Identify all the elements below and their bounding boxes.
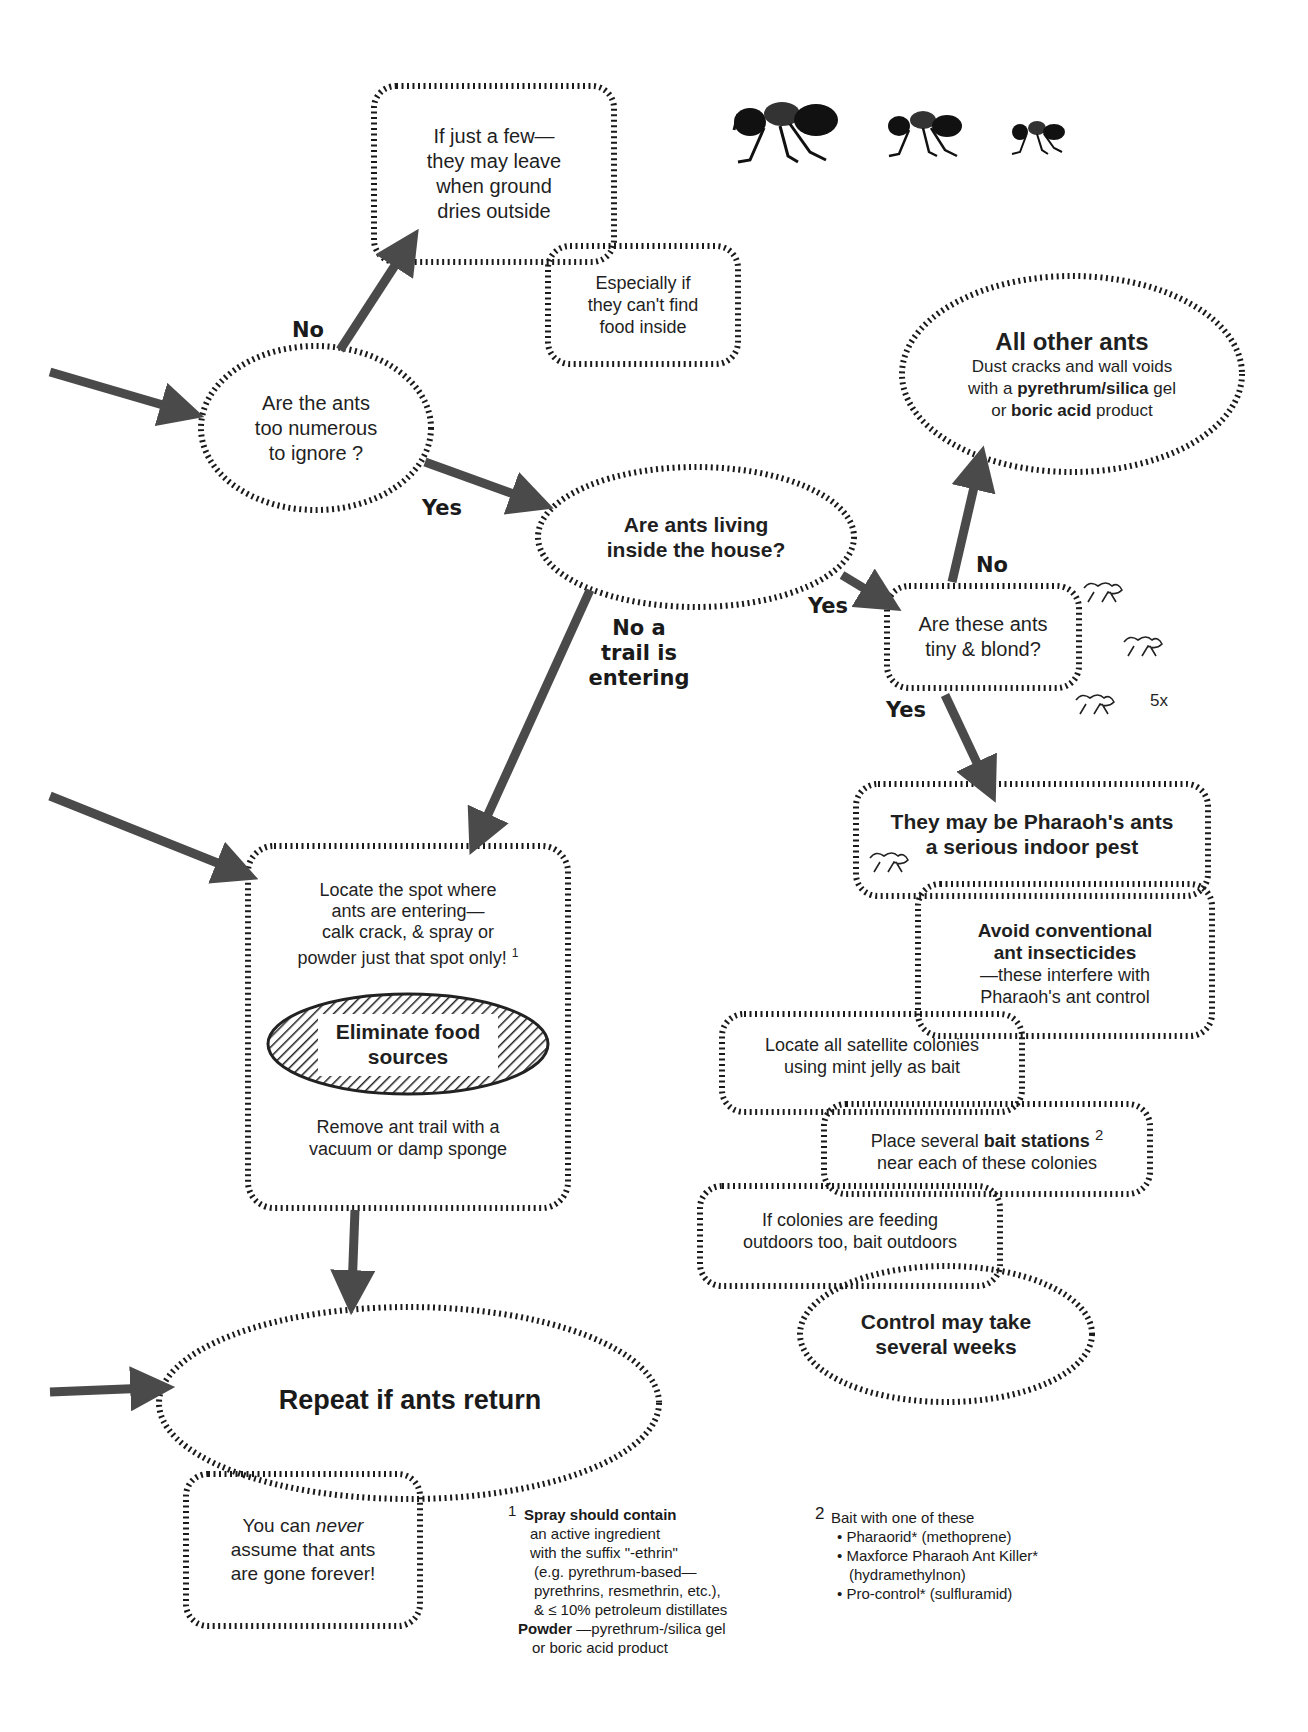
node-text: are gone forever! bbox=[231, 1562, 376, 1586]
ant-small-icon bbox=[1012, 121, 1065, 154]
node-text: dries outside bbox=[437, 199, 550, 224]
node-text: to ignore ? bbox=[269, 441, 364, 466]
few-ants-node: If just a few— they may leave when groun… bbox=[374, 86, 614, 262]
text-fragment: Place several bbox=[871, 1131, 984, 1151]
edge-label-no-numerous: No bbox=[292, 318, 324, 343]
edge-label-no-trail: No a trail is entering bbox=[584, 616, 694, 691]
node-text: food inside bbox=[599, 316, 686, 338]
footnote-marker: 1 bbox=[508, 1501, 516, 1520]
node-text: inside the house? bbox=[607, 537, 786, 562]
node-text: Eliminate food bbox=[336, 1019, 481, 1044]
node-text: or boric acid product bbox=[991, 400, 1153, 422]
node-text: when ground bbox=[436, 174, 552, 199]
node-text: Are these ants bbox=[919, 612, 1048, 637]
arrow-no-few bbox=[340, 250, 405, 350]
numerous-question-node: Are the ants too numerous to ignore ? bbox=[201, 346, 431, 510]
avoid-insecticides-node: Avoid conventional ant insecticides —the… bbox=[918, 904, 1212, 1024]
node-text: If colonies are feeding bbox=[762, 1209, 938, 1231]
living-inside-question-node: Are ants living inside the house? bbox=[538, 470, 854, 604]
footnote-list-item: • Pro-control* (sulfluramid) bbox=[815, 1584, 1105, 1603]
node-text: They may be Pharaoh's ants bbox=[891, 809, 1174, 834]
node-text: Locate the spot where bbox=[319, 880, 496, 901]
arrow-to-repeat bbox=[352, 1210, 355, 1290]
bait-outdoors-node: If colonies are feeding outdoors too, ba… bbox=[700, 1186, 1000, 1276]
node-text: Dust cracks and wall voids bbox=[972, 356, 1172, 378]
text-bold: pyrethrum/silica bbox=[1017, 379, 1148, 398]
label-line: No a bbox=[584, 616, 694, 641]
footnote-ref-2[interactable]: 2 bbox=[1095, 1126, 1103, 1143]
node-text: Are the ants bbox=[262, 391, 370, 416]
footnote-bold: Powder bbox=[518, 1620, 572, 1637]
repeat-node: Repeat if ants return bbox=[160, 1340, 660, 1460]
node-text: Are ants living bbox=[624, 512, 769, 537]
text-bold: bait stations bbox=[984, 1131, 1090, 1151]
text-fragment: powder just that spot only! bbox=[298, 948, 507, 968]
several-weeks-node: Control may take several weeks bbox=[800, 1276, 1092, 1392]
text-fragment: —pyrethrum-/silica gel bbox=[572, 1620, 725, 1637]
footnote-line: pyrethrins, resmethrin, etc.), bbox=[508, 1581, 808, 1600]
arrow-entry-1 bbox=[50, 372, 180, 410]
node-text: they may leave bbox=[427, 149, 562, 174]
text-fragment: product bbox=[1091, 401, 1152, 420]
footnote-line: or boric acid product bbox=[508, 1638, 808, 1657]
node-text: near each of these colonies bbox=[877, 1152, 1097, 1174]
footnote-2: 2 Bait with one of these • Pharaorid* (m… bbox=[815, 1508, 1105, 1603]
label-line: entering bbox=[584, 666, 694, 691]
tiny-blond-question-node: Are these ants tiny & blond? bbox=[887, 586, 1079, 688]
text-fragment: or bbox=[991, 401, 1011, 420]
magnification-label: 5x bbox=[1150, 688, 1168, 713]
flowchart-canvas: If just a few— they may leave when groun… bbox=[0, 0, 1308, 1732]
pharaoh-ant-icon-2 bbox=[1124, 637, 1162, 656]
footnote-line: (e.g. pyrethrum-based— bbox=[508, 1562, 808, 1581]
node-text: ants are entering— bbox=[331, 901, 484, 922]
arrow-yes-pharaoh bbox=[945, 695, 985, 780]
bait-stations-node: Place several bait stations 2 near each … bbox=[824, 1104, 1150, 1194]
node-text: Control may take bbox=[861, 1309, 1031, 1334]
other-ants-node: All other ants Dust cracks and wall void… bbox=[902, 300, 1242, 450]
arrow-entry-3 bbox=[50, 1388, 150, 1392]
node-text: powder just that spot only! 1 bbox=[298, 943, 519, 969]
node-text: —these interfere with bbox=[980, 964, 1150, 986]
footnote-title: Spray should contain bbox=[508, 1505, 808, 1524]
footnote-marker: 2 bbox=[815, 1504, 824, 1523]
footnote-title: Bait with one of these bbox=[815, 1508, 1105, 1527]
label-line: trail is bbox=[584, 641, 694, 666]
node-text: You can never bbox=[243, 1514, 364, 1538]
node-text: tiny & blond? bbox=[925, 637, 1041, 662]
footnote-list-item: • Pharaorid* (methoprene) bbox=[815, 1527, 1105, 1546]
arrow-no-other bbox=[952, 470, 978, 582]
node-text: Remove ant trail with a bbox=[316, 1116, 499, 1138]
node-text: a serious indoor pest bbox=[926, 834, 1138, 859]
arrow-yes-living bbox=[425, 462, 530, 500]
node-text-bold: Avoid conventional bbox=[978, 920, 1153, 942]
pharaoh-ant-icon-1 bbox=[1084, 583, 1122, 602]
node-text: several weeks bbox=[875, 1334, 1016, 1359]
footnote-list-item: • Maxforce Pharaoh Ant Killer* bbox=[815, 1546, 1105, 1565]
node-text: Especially if bbox=[595, 272, 690, 294]
edge-label-yes-living: Yes bbox=[808, 594, 848, 619]
remove-trail-node: Remove ant trail with a vacuum or damp s… bbox=[248, 1110, 568, 1166]
text-fragment: gel bbox=[1149, 379, 1176, 398]
pharaoh-ant-icon-3 bbox=[1076, 695, 1114, 714]
node-text: assume that ants bbox=[231, 1538, 376, 1562]
never-assume-node: You can never assume that ants are gone … bbox=[186, 1490, 420, 1610]
pharaoh-node: They may be Pharaoh's ants a serious ind… bbox=[856, 784, 1208, 884]
edge-label-yes-tiny: Yes bbox=[886, 698, 926, 723]
arrow-entry-2 bbox=[50, 796, 235, 870]
edge-label-yes-numerous: Yes bbox=[422, 496, 462, 521]
footnote-1: 1 Spray should contain an active ingredi… bbox=[508, 1505, 808, 1657]
footnote-line: & ≤ 10% petroleum distillates bbox=[508, 1600, 808, 1619]
footnote-list-item: (hydramethylnon) bbox=[815, 1565, 1105, 1584]
food-inside-node: Especially if they can't find food insid… bbox=[548, 250, 738, 360]
node-text: they can't find bbox=[588, 294, 699, 316]
node-title: Repeat if ants return bbox=[279, 1385, 542, 1416]
ant-large-icon bbox=[734, 102, 838, 162]
footnote-line: an active ingredient bbox=[508, 1524, 808, 1543]
footnote-line: with the suffix "-ethrin" bbox=[508, 1543, 808, 1562]
locate-spot-node: Locate the spot where ants are entering—… bbox=[248, 880, 568, 990]
node-text: sources bbox=[368, 1044, 449, 1069]
node-text: calk crack, & spray or bbox=[322, 922, 494, 943]
footnote-ref-1[interactable]: 1 bbox=[512, 946, 519, 960]
node-title: All other ants bbox=[995, 328, 1148, 356]
text-bold: boric acid bbox=[1011, 401, 1091, 420]
